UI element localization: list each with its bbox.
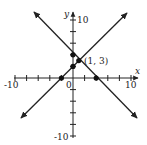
y-min-label: -10 <box>54 132 69 142</box>
point-neg2-0 <box>59 75 64 80</box>
intersection-label: (1, 3) <box>84 56 108 66</box>
point-0-2 <box>70 64 75 69</box>
point-0-4 <box>70 52 75 57</box>
y-axis-label: y <box>63 9 70 19</box>
x-max-label: 10 <box>125 80 137 90</box>
y-max-label: 10 <box>77 15 89 25</box>
point-4-0 <box>94 75 99 80</box>
intersection-point <box>76 58 81 63</box>
x-min-label: -10 <box>4 80 19 90</box>
x-axis-label: x <box>135 66 140 76</box>
origin-label: 0 <box>66 80 72 90</box>
coordinate-plane: y 10 -10 x -10 10 0 (1, 3) <box>0 0 147 145</box>
